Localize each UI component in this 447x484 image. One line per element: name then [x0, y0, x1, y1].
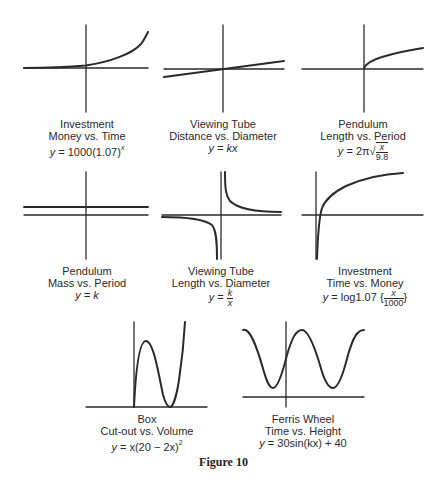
sqrt-symbol: √x9.8	[370, 142, 389, 162]
caption-graph-5: Viewing Tube Length vs. Diameter y = kx	[146, 265, 296, 308]
fraction: x1000	[384, 289, 404, 308]
caption-subtitle: Distance vs. Diameter	[148, 130, 298, 142]
graph-pendulum-mass-vs-period	[24, 172, 148, 259]
graph-pendulum-length-vs-period	[302, 25, 423, 112]
caption-title: Ferris Wheel	[228, 413, 378, 425]
caption-graph-8: Ferris Wheel Time vs. Height y = 30sin(k…	[228, 413, 378, 449]
curve	[364, 48, 423, 68]
caption-equation: y = 1000(1.07)x	[12, 142, 162, 158]
caption-graph-1: Investment Money vs. Time y = 1000(1.07)…	[12, 118, 162, 158]
fraction: kx	[227, 289, 234, 308]
caption-equation: y = kx	[146, 289, 296, 308]
caption-subtitle: Cut-out vs. Volume	[72, 425, 222, 437]
caption-equation: y = kx	[148, 142, 298, 154]
curve	[243, 330, 364, 388]
caption-equation: y = x(20 − 2x)2	[72, 437, 222, 453]
graph-viewing-tube-distance-vs-diameter	[164, 25, 284, 112]
graph-investment-money-vs-time	[24, 25, 148, 112]
graph-box-cutout-vs-volume	[86, 322, 207, 407]
graphs-canvas	[0, 0, 447, 484]
caption-title: Investment	[290, 265, 440, 277]
caption-subtitle: Money vs. Time	[12, 130, 162, 142]
caption-subtitle: Mass vs. Period	[12, 277, 162, 289]
graph-investment-time-vs-money	[302, 172, 423, 259]
curve	[134, 322, 185, 407]
caption-title: Pendulum	[288, 118, 438, 130]
figure-label: Figure 10	[0, 455, 447, 470]
caption-subtitle: Time vs. Money	[290, 277, 440, 289]
caption-graph-3: Pendulum Length vs. Period y = 2π√x9.8	[288, 118, 438, 162]
caption-title: Investment	[12, 118, 162, 130]
caption-graph-2: Viewing Tube Distance vs. Diameter y = k…	[148, 118, 298, 154]
graph-viewing-tube-length-vs-diameter	[162, 172, 281, 259]
caption-title: Box	[72, 413, 222, 425]
caption-subtitle: Time vs. Height	[228, 425, 378, 437]
curve-negative	[162, 217, 217, 259]
curve-positive	[225, 172, 281, 212]
caption-equation: y = 2π√x9.8	[288, 142, 438, 162]
caption-title: Viewing Tube	[148, 118, 298, 130]
caption-subtitle: Length vs. Diameter	[146, 277, 296, 289]
curve	[317, 173, 403, 259]
caption-graph-6: Investment Time vs. Money y = log1.07 {x…	[290, 265, 440, 308]
caption-graph-4: Pendulum Mass vs. Period y = k	[12, 265, 162, 301]
caption-title: Pendulum	[12, 265, 162, 277]
caption-equation: y = log1.07 {x1000}	[290, 289, 440, 308]
caption-title: Viewing Tube	[146, 265, 296, 277]
caption-subtitle: Length vs. Period	[288, 130, 438, 142]
graph-ferris-wheel-time-vs-height	[243, 322, 364, 407]
caption-graph-7: Box Cut-out vs. Volume y = x(20 − 2x)2	[72, 413, 222, 453]
caption-equation: y = k	[12, 289, 162, 301]
caption-equation: y = 30sin(kx) + 40	[228, 437, 378, 449]
